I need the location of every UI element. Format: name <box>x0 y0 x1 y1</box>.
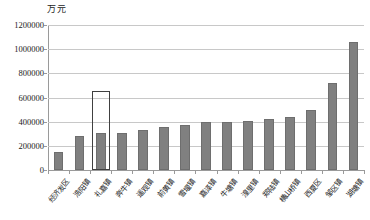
y-axis-tick-mark <box>44 170 47 171</box>
bar <box>222 122 232 170</box>
bar-chart: 万元 0200000400000600000800000100000012000… <box>0 0 370 220</box>
bar <box>159 127 169 170</box>
x-axis-category-label: 邹区镇 <box>323 176 345 199</box>
y-axis-tick-mark <box>44 122 47 123</box>
x-axis-tick-mark <box>364 170 365 174</box>
y-axis-tick-label: 800000 <box>19 68 45 78</box>
y-axis-tick-label: 600000 <box>19 93 45 103</box>
x-axis-category-label: 遥观镇 <box>133 176 155 199</box>
bar <box>349 42 359 170</box>
bar <box>180 125 190 170</box>
y-axis-tick-mark <box>44 98 47 99</box>
gridline <box>48 49 364 50</box>
y-axis-tick-mark <box>44 146 47 147</box>
bar <box>285 117 295 170</box>
x-axis-category-label: 横山桥镇 <box>276 176 302 205</box>
y-axis-tick-label: 1000000 <box>14 44 44 54</box>
x-axis-category-label: 雪堰镇 <box>175 176 197 199</box>
bar <box>54 152 64 170</box>
bar <box>201 122 211 170</box>
x-axis-category-label: 奔牛镇 <box>112 176 134 199</box>
y-axis-tick-mark <box>44 25 47 26</box>
x-axis-category-label: 牛塘镇 <box>218 176 240 199</box>
x-axis-category-label: 湖塘镇 <box>344 176 366 199</box>
x-axis-category-labels: 经济发区浩阳镇礼嘉镇奔牛镇遥观镇前黄镇雪堰镇嘉泽镇牛塘镇湟里镇郑陆镇横山桥镇西夏… <box>48 174 364 220</box>
bar <box>243 121 253 170</box>
x-axis-category-label: 嘉泽镇 <box>197 176 219 199</box>
y-axis-tick-label: 400000 <box>19 117 45 127</box>
gridline <box>48 25 364 26</box>
bar <box>75 136 85 170</box>
x-axis-category-label: 前黄镇 <box>154 176 176 199</box>
x-axis-category-label: 礼嘉镇 <box>91 176 113 199</box>
x-axis-category-label: 经济发区 <box>45 176 71 205</box>
x-axis-category-label: 西夏区 <box>302 176 324 199</box>
plot-area <box>48 25 364 170</box>
highlight-selection-box[interactable] <box>92 91 110 170</box>
y-axis-unit-label: 万元 <box>47 2 66 15</box>
bar <box>306 110 316 170</box>
y-axis-tick-label: 200000 <box>19 141 45 151</box>
bar <box>138 130 148 170</box>
y-axis-tick-mark <box>44 49 47 50</box>
x-axis-category-label: 浩阳镇 <box>70 176 92 199</box>
bar <box>264 119 274 170</box>
bar <box>117 133 127 170</box>
bar <box>328 83 338 170</box>
gridline <box>48 73 364 74</box>
y-axis-tick-mark <box>44 73 47 74</box>
y-axis-tick-label: 1200000 <box>14 20 44 30</box>
y-axis-tick-labels: 020000040000060000080000010000001200000 <box>0 25 44 170</box>
x-axis-category-label: 湟里镇 <box>239 176 261 199</box>
